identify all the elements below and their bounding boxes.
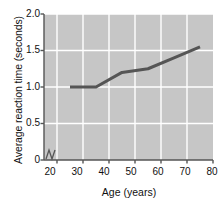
plot-canvas <box>0 0 221 209</box>
reaction-time-line-chart: Average reaction time (seconds) 2.0 1.5 … <box>0 0 221 209</box>
